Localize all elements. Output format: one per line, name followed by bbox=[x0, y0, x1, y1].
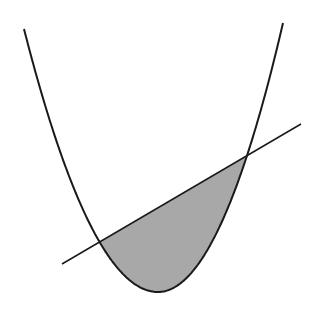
parabola-line-diagram bbox=[0, 0, 327, 312]
shaded-region bbox=[101, 156, 246, 292]
